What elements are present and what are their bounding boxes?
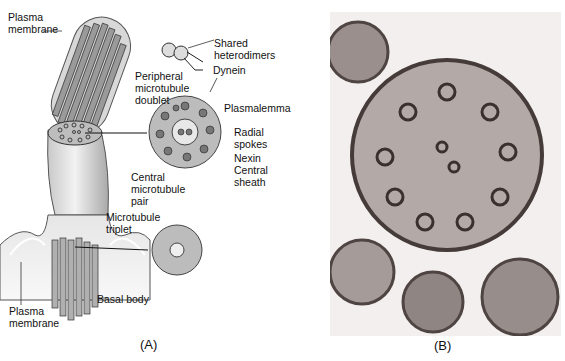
label-shared-heterodimers: Shared heterodimers [214, 37, 275, 61]
label-plasmalemma: Plasmalemma [224, 102, 291, 114]
caption-a: (A) [140, 337, 157, 352]
label-peripheral-doublet: Peripheral microtubule doublet [135, 70, 189, 106]
electron-micrograph [330, 12, 561, 336]
label-dynein: Dynein [213, 64, 246, 76]
label-central-sheath: Central sheath [234, 164, 268, 188]
label-basal-body: Basal body [97, 293, 149, 305]
label-radial-spokes: Radial spokes [234, 126, 267, 150]
label-plasma-membrane-bottom: Plasma membrane [9, 305, 59, 329]
caption-b: (B) [434, 338, 451, 353]
label-central-pair: Central microtubule pair [131, 171, 185, 207]
axoneme-cross-section [149, 96, 221, 168]
label-microtubule-triplet: Microtubule triplet [106, 211, 160, 235]
label-plasma-membrane-top: Plasma membrane [8, 11, 58, 35]
label-nexin: Nexin [234, 152, 261, 164]
